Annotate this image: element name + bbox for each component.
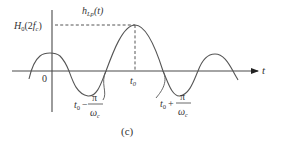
svg-text:ωc: ωc (178, 106, 188, 118)
peak-label-arg-close: ) (39, 20, 42, 32)
figure-caption: (c) (121, 125, 134, 138)
peak-time-sub: 0 (133, 80, 137, 87)
left-zero-sub: 0 (77, 104, 80, 111)
curve-label: hLp(t) (82, 5, 104, 17)
peak-amplitude-label: H0(2fc) (13, 20, 42, 32)
peak-time-label: t0 (130, 75, 137, 87)
time-axis-label: t (262, 64, 266, 76)
left-zero-op: − (82, 99, 88, 110)
curve-label-arg: (t) (94, 5, 104, 17)
peak-label-arg-open: (2 (24, 20, 32, 32)
svg-text:t0−: t0− (74, 99, 88, 111)
origin-label: 0 (42, 73, 47, 84)
right-zero-num: π (180, 91, 185, 102)
svg-text:ωc: ωc (90, 107, 100, 119)
left-zero-leader-line (103, 71, 106, 100)
svg-text:t0+: t0+ (160, 98, 174, 110)
right-zero-den: ω (178, 106, 185, 117)
right-zero-leader-line (156, 71, 165, 98)
left-zero-num: π (92, 92, 97, 103)
right-zero-den-sub: c (185, 112, 188, 118)
left-zero-den: ω (90, 107, 97, 118)
sinc-pulse-diagram: t 0 hLp(t) H0(2fc) t0 t0− π ωc t0+ π ωc … (0, 0, 281, 142)
right-zero-sub: 0 (163, 103, 166, 110)
left-zero-den-sub: c (97, 113, 100, 119)
right-zero-op: + (168, 98, 174, 109)
